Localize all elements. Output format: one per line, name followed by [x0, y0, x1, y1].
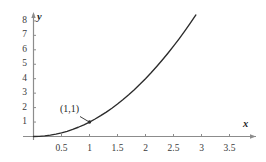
x-axis-arrowhead: [250, 134, 256, 139]
y-axis-tick-label: 6: [13, 45, 27, 55]
x-axis: [23, 134, 256, 139]
x-axis-tick-label: 3.5: [219, 144, 241, 154]
x-axis-tick-label: 0.5: [51, 144, 73, 154]
annotation-leader-line: [80, 117, 88, 122]
plot-canvas: [0, 0, 266, 162]
y-axis-tick-label: 5: [13, 59, 27, 69]
point-annotation-label: (1,1): [60, 104, 79, 114]
x-axis-tick-label: 3: [191, 144, 213, 154]
annotation-point-marker: [88, 120, 91, 123]
x-axis-tick-label: 2: [135, 144, 157, 154]
y-axis-arrowhead: [31, 12, 35, 18]
y-axis-tick-label: 2: [13, 103, 27, 113]
x-axis-tick-label: 2.5: [163, 144, 185, 154]
y-axis-tick-label: 3: [13, 88, 27, 98]
curve-y-equals-x-squared: [34, 15, 196, 137]
y-axis-tick-label: 1: [13, 117, 27, 127]
y-axis: [31, 12, 36, 140]
x-axis-label: x: [243, 119, 248, 130]
y-axis-tick-label: 4: [13, 74, 27, 84]
y-axis-tick-label: 8: [13, 16, 27, 26]
x-axis-tick-label: 1.5: [107, 144, 129, 154]
x-axis-tick-label: 1: [79, 144, 101, 154]
graph-figure: 12345678 0.511.522.533.5 y x (1,1): [0, 0, 266, 162]
y-axis-tick-label: 7: [13, 30, 27, 40]
y-axis-label: y: [37, 12, 42, 23]
